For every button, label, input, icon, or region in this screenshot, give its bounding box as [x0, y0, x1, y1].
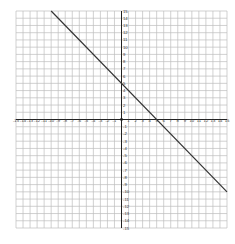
y-tick-label: 11 [123, 37, 128, 42]
y-tick-label: -10 [123, 189, 130, 194]
x-tick-label: 6 [163, 118, 166, 123]
x-tick-label: -6 [77, 118, 81, 123]
x-tick-label: -11 [41, 118, 47, 123]
y-tick-label: 14 [123, 16, 128, 21]
x-tick-label: 1 [127, 118, 130, 123]
x-tick-label: 13 [211, 118, 216, 123]
x-tick-label: -15 [13, 118, 20, 123]
data-series [51, 11, 227, 192]
x-tick-label: 8 [177, 118, 180, 123]
y-tick-label: -12 [123, 204, 130, 209]
x-tick-label: -13 [27, 118, 34, 123]
x-tick-label: -3 [99, 118, 103, 123]
line-series [51, 11, 227, 192]
x-tick-label: 11 [197, 118, 202, 123]
x-tick-label: -5 [84, 118, 88, 123]
y-tick-label: -15 [123, 226, 130, 231]
y-tick-label: -11 [123, 197, 129, 202]
y-tick-label: 12 [123, 30, 128, 35]
y-tick-label: -13 [123, 211, 130, 216]
x-tick-label: -1 [113, 118, 117, 123]
x-tick-label: 4 [148, 118, 151, 123]
y-tick-label: -14 [123, 218, 130, 223]
x-tick-label: 9 [184, 118, 187, 123]
x-tick-label: -14 [20, 118, 27, 123]
x-tick-label: -12 [34, 118, 41, 123]
y-tick-label: 10 [123, 45, 128, 50]
x-tick-label: -8 [63, 118, 67, 123]
x-tick-label: 2 [134, 118, 137, 123]
x-tick-label: 14 [218, 118, 223, 123]
x-tick-label: 10 [189, 118, 194, 123]
x-tick-label: -4 [91, 118, 95, 123]
coordinate-plane: -15-14-13-12-11-10-9-8-7-6-5-4-3-2-11234… [0, 0, 235, 244]
y-tick-label: 13 [123, 23, 128, 28]
x-tick-label: 7 [170, 118, 173, 123]
x-tick-label: 12 [204, 118, 209, 123]
x-tick-label: -10 [48, 118, 55, 123]
x-tick-label: -9 [56, 118, 60, 123]
x-tick-label: 15 [225, 118, 230, 123]
origin-dot [120, 118, 123, 121]
x-tick-label: -7 [70, 118, 74, 123]
x-tick-label: -2 [106, 118, 110, 123]
x-tick-label: 3 [141, 118, 144, 123]
y-tick-label: 15 [123, 9, 128, 14]
